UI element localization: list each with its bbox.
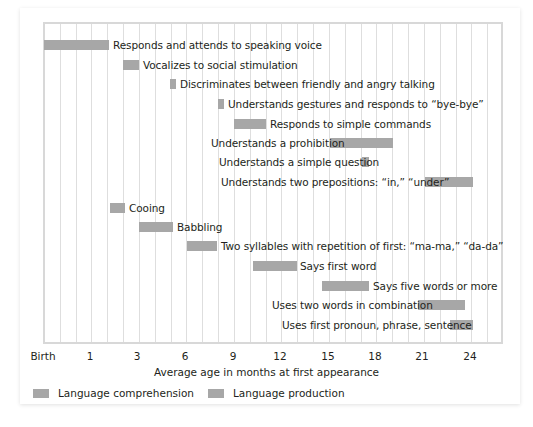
- grid-line: [107, 24, 108, 342]
- milestone-label: Uses first pronoun, phrase, sentence: [282, 319, 472, 331]
- grid-line: [202, 24, 203, 342]
- timeline-bar: [123, 60, 139, 70]
- milestone-label: Responds and attends to speaking voice: [113, 39, 322, 51]
- timeline-bar: [170, 79, 176, 89]
- grid-line: [60, 24, 61, 342]
- milestone-label: Understands a prohibition: [211, 137, 345, 149]
- grid-line: [218, 24, 219, 342]
- grid-line: [139, 24, 140, 342]
- timeline-bar: [139, 222, 173, 232]
- milestone-label: Understands a simple question: [219, 156, 379, 168]
- grid-line: [487, 24, 488, 342]
- milestone-label: Babbling: [177, 221, 222, 233]
- timeline-bar: [253, 261, 297, 271]
- timeline-bar: [322, 281, 369, 291]
- grid-line: [123, 24, 124, 342]
- x-tick-label: 6: [182, 350, 189, 362]
- milestone-label: Understands gestures and responds to “by…: [228, 98, 484, 110]
- legend-swatch-comprehension: [33, 389, 49, 398]
- grid-line: [76, 24, 77, 342]
- milestone-label: Responds to simple commands: [270, 118, 431, 130]
- legend-label-production: Language production: [233, 387, 345, 399]
- x-axis-label: Average age in months at first appearanc…: [0, 366, 533, 378]
- milestone-label: Two syllables with repetition of first: …: [221, 240, 503, 252]
- legend-item-comprehension: Language comprehension: [33, 386, 194, 400]
- timeline-bar: [44, 40, 109, 50]
- x-tick-label: 3: [134, 350, 141, 362]
- milestone-label: Vocalizes to social stimulation: [143, 59, 298, 71]
- timeline-bar: [218, 99, 224, 109]
- legend-label-comprehension: Language comprehension: [58, 387, 194, 399]
- grid-line: [155, 24, 156, 342]
- milestone-label: Uses two words in combination: [272, 299, 433, 311]
- milestone-label: Says first word: [300, 260, 376, 272]
- grid-line: [186, 24, 187, 342]
- milestone-label: Understands two prepositions: “in,” “und…: [221, 176, 449, 188]
- milestone-label: Says five words or more: [373, 280, 497, 292]
- x-tick-label: Birth: [30, 350, 55, 362]
- x-tick-label: 21: [415, 350, 428, 362]
- timeline-bar: [234, 119, 266, 129]
- legend-item-production: Language production: [208, 386, 345, 400]
- x-tick-label: 1: [87, 350, 94, 362]
- timeline-bar: [110, 203, 125, 213]
- x-tick-label: 15: [321, 350, 334, 362]
- grid-line: [91, 24, 92, 342]
- x-tick-label: 18: [368, 350, 381, 362]
- x-tick-label: 24: [463, 350, 476, 362]
- x-tick-label: 12: [273, 350, 286, 362]
- timeline-bar: [187, 241, 217, 251]
- milestone-label: Discriminates between friendly and angry…: [180, 78, 435, 90]
- milestone-label: Cooing: [129, 202, 165, 214]
- x-tick-label: 9: [230, 350, 237, 362]
- legend-swatch-production: [208, 389, 224, 398]
- grid-line: [171, 24, 172, 342]
